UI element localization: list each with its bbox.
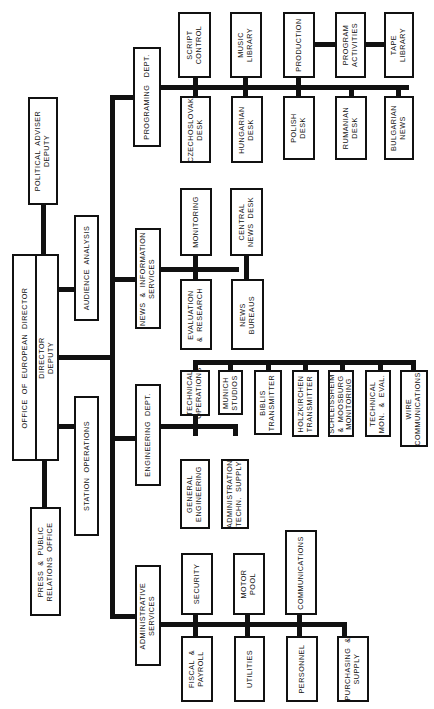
tape-library-label: TAPE LIBRARY — [390, 28, 407, 62]
general-engineering-box[interactable]: GENERAL ENGINEERING — [180, 459, 210, 529]
monitoring-box[interactable]: MONITORING — [180, 188, 212, 256]
security-box[interactable]: SECURITY — [181, 553, 213, 615]
press-public-relations-box[interactable]: PRESS & PUBLIC RELATIONS OFFICE — [30, 507, 61, 616]
news-information-box[interactable]: NEWS & INFORMATION SERVICES — [135, 228, 161, 329]
communications-box[interactable]: COMMUNICATIONS — [285, 530, 317, 615]
engineering-dept-label: ENGINEERING DEPT. — [144, 393, 153, 477]
production-box[interactable]: PRODUCTION — [283, 12, 315, 78]
personnel-box[interactable]: PERSONNEL — [286, 636, 318, 702]
czechoslovak-desk-label: CZECHOSLOVAK DESK — [187, 97, 204, 162]
wire-communications-box[interactable]: WIRE COMMUNICATIONS — [400, 370, 428, 447]
polish-desk-label: POLISH DESK — [290, 113, 307, 142]
connector — [57, 424, 75, 429]
programing-dept-box[interactable]: PROGRAMING DEPT. — [133, 47, 161, 147]
connector — [41, 204, 46, 256]
purchasing-supply-label: PURCHASING & SUPPLY — [344, 637, 361, 700]
script-control-label: SCRIPT CONTROL — [186, 26, 203, 65]
press-public-relations-label: PRESS & PUBLIC RELATIONS OFFICE — [37, 522, 54, 601]
central-news-desk-label: CENTRAL NEWS DESK — [238, 197, 255, 247]
program-activities-box[interactable]: PROGRAM ACTIVITIES — [335, 12, 366, 78]
connector — [159, 424, 237, 429]
motor-pool-box[interactable]: MOTOR POOL — [233, 553, 265, 615]
connector — [110, 95, 134, 100]
programing-dept-label: PROGRAMING DEPT. — [143, 54, 152, 139]
connector — [245, 612, 250, 636]
biblis-transmitter-label: BIBLIS TRANSMITTER — [259, 374, 276, 431]
bulgarian-news-box[interactable]: BULGARIAN NEWS — [384, 96, 414, 160]
communications-label: COMMUNICATIONS — [297, 536, 306, 610]
technical-mon-eval-label: TECHNICAL MON. & EVAL. — [369, 374, 386, 432]
connector — [42, 459, 47, 508]
technical-operations-label: TECHNICAL OPERATIONS — [186, 367, 203, 419]
schleissheim-moosburg-monitoring-label: SCHLEISSHEIM & MOOSBURG MONITORING — [328, 374, 354, 434]
connector — [365, 42, 385, 47]
administrative-services-box[interactable]: ADMINISTRATIVE SERVICES — [135, 565, 161, 666]
wire-communications-label: WIRE COMMUNICATIONS — [405, 372, 422, 446]
connector — [297, 612, 302, 636]
evaluation-research-box[interactable]: EVALUATION & RESEARCH — [180, 279, 212, 350]
connector — [193, 255, 198, 280]
technical-mon-eval-box[interactable]: TECHNICAL MON. & EVAL. — [365, 370, 391, 437]
rumanian-desk-label: RUMANIAN DESK — [342, 107, 359, 149]
biblis-transmitter-box[interactable]: BIBLIS TRANSMITTER — [254, 370, 282, 435]
motor-pool-label: MOTOR POOL — [240, 569, 257, 598]
central-news-desk-box[interactable]: CENTRAL NEWS DESK — [230, 188, 263, 256]
connector — [314, 42, 336, 47]
hungarian-desk-box[interactable]: HUNGARIAN DESK — [231, 96, 263, 163]
personnel-label: PERSONNEL — [298, 645, 307, 694]
fiscal-payroll-label: FISCAL & PAYROLL — [188, 650, 205, 688]
czechoslovak-desk-box[interactable]: CZECHOSLOVAK DESK — [180, 96, 211, 163]
connector — [244, 255, 249, 280]
hungarian-desk-label: HUNGARIAN DESK — [238, 106, 255, 154]
news-bureaus-box[interactable]: NEWS BUREAUS — [231, 279, 264, 350]
general-engineering-label: GENERAL ENGINEERING — [186, 466, 203, 522]
office-of-european-director-box[interactable]: OFFICE OF EUROPEAN DIRECTOR DIRECTOR DEP… — [12, 254, 59, 461]
rumanian-desk-box[interactable]: RUMANIAN DESK — [335, 96, 367, 160]
connector — [296, 76, 301, 98]
administration-techn-supply-box[interactable]: ADMINISTRATION TECHN. SUPPLY — [221, 459, 249, 529]
fiscal-payroll-box[interactable]: FISCAL & PAYROLL — [181, 636, 213, 702]
music-library-box[interactable]: MUSIC LIBRARY — [230, 12, 262, 78]
connector — [110, 436, 136, 441]
connector — [159, 622, 346, 627]
music-library-label: MUSIC LIBRARY — [237, 28, 254, 62]
munich-studios-box[interactable]: MUNICH STUDIOS — [218, 370, 243, 415]
audience-analysis-label: AUDIENCE ANALYSIS — [82, 226, 91, 310]
tape-library-box[interactable]: TAPE LIBRARY — [384, 12, 414, 78]
director-label: OFFICE OF EUROPEAN DIRECTOR — [21, 287, 30, 428]
evaluation-research-label: EVALUATION & RESEARCH — [187, 287, 204, 341]
holzkirchen-transmitter-label: HOLZKIRCHEN TRANSMITTER — [297, 375, 314, 432]
holzkirchen-transmitter-box[interactable]: HOLZKIRCHEN TRANSMITTER — [292, 370, 319, 437]
purchasing-supply-box[interactable]: PURCHASING & SUPPLY — [337, 636, 369, 702]
technical-operations-box[interactable]: TECHNICAL OPERATIONS — [180, 370, 210, 416]
connector — [193, 612, 198, 636]
political-adviser-label: POLITICAL ADVISER DEPUTY — [34, 111, 51, 192]
connector — [159, 267, 239, 272]
station-operations-box[interactable]: STATION OPERATIONS — [74, 396, 99, 536]
connector — [243, 76, 248, 98]
connector — [193, 76, 198, 98]
deputy-label: DIRECTOR DEPUTY — [38, 337, 55, 378]
polish-desk-box[interactable]: POLISH DESK — [283, 96, 315, 160]
connector — [110, 277, 136, 282]
administrative-services-label: ADMINISTRATIVE SERVICES — [139, 582, 156, 649]
monitoring-label: MONITORING — [192, 196, 201, 248]
connector — [57, 287, 75, 292]
utilities-label: UTILITIES — [245, 650, 254, 688]
script-control-box[interactable]: SCRIPT CONTROL — [178, 12, 211, 78]
connector — [233, 424, 238, 436]
connector — [342, 622, 347, 636]
connector — [57, 355, 114, 360]
security-label: SECURITY — [193, 564, 202, 604]
political-adviser-box[interactable]: POLITICAL ADVISER DEPUTY — [28, 97, 58, 205]
administration-techn-supply-label: ADMINISTRATION TECHN. SUPPLY — [226, 460, 243, 528]
main-spine — [110, 95, 115, 619]
bulgarian-news-label: BULGARIAN NEWS — [390, 105, 407, 151]
engineering-dept-box[interactable]: ENGINEERING DEPT. — [135, 384, 161, 486]
program-activities-label: PROGRAM ACTIVITIES — [342, 23, 359, 67]
audience-analysis-box[interactable]: AUDIENCE ANALYSIS — [74, 215, 99, 321]
news-information-label: NEWS & INFORMATION SERVICES — [139, 231, 156, 325]
utilities-box[interactable]: UTILITIES — [234, 636, 265, 702]
schleissheim-moosburg-monitoring-box[interactable]: SCHLEISSHEIM & MOOSBURG MONITORING — [328, 370, 354, 437]
station-operations-label: STATION OPERATIONS — [82, 421, 91, 511]
